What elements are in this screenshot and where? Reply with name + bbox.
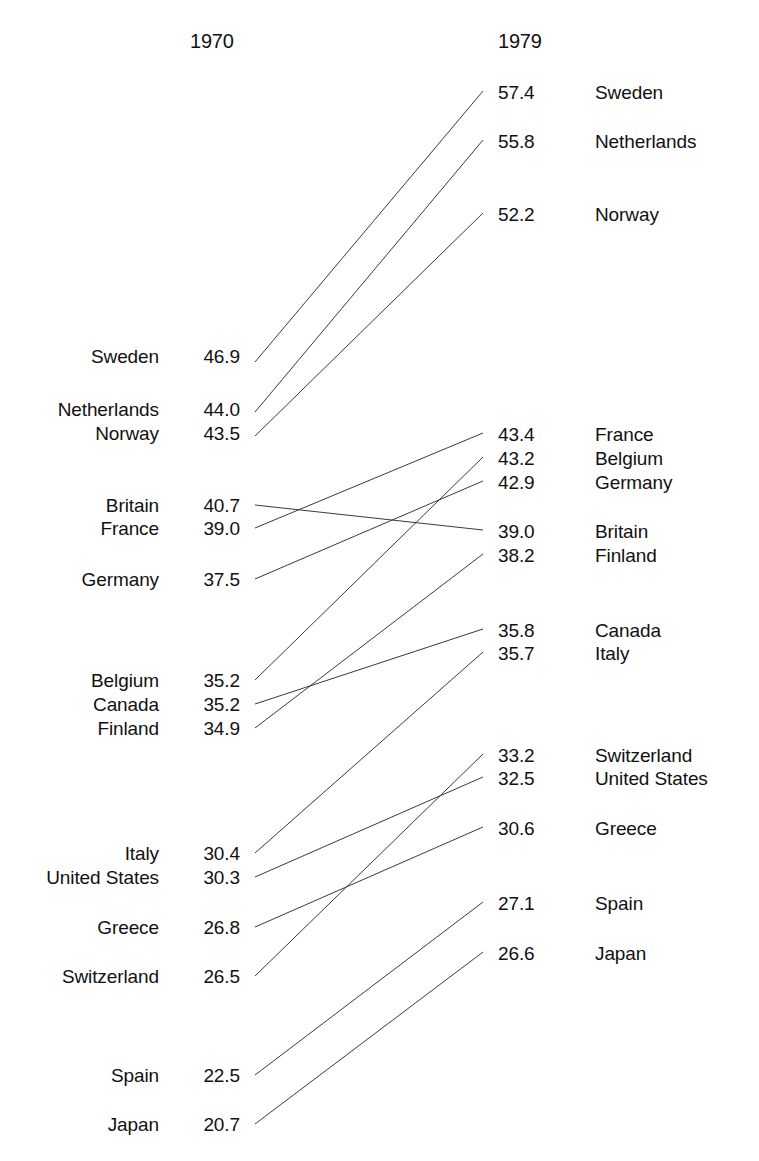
right-row-name: Germany <box>595 473 672 492</box>
left-row-name: Germany <box>82 570 159 589</box>
right-row-name: Netherlands <box>595 132 696 151</box>
left-row-name: Spain <box>111 1066 159 1085</box>
right-row-name: Norway <box>595 205 659 224</box>
left-row-value: 26.8 <box>203 918 240 937</box>
slope-line <box>255 433 483 528</box>
right-row-value: 35.7 <box>498 644 535 663</box>
left-row-name: France <box>100 519 159 538</box>
right-row-name: France <box>595 425 654 444</box>
left-row-name: Sweden <box>91 347 159 366</box>
left-row-value: 46.9 <box>203 347 240 366</box>
right-row-name: Spain <box>595 894 643 913</box>
left-row-value: 30.4 <box>203 844 240 863</box>
column-header-left: 1970 <box>190 31 234 51</box>
right-row-name: Switzerland <box>595 746 692 765</box>
right-row-value: 32.5 <box>498 769 535 788</box>
left-row-name: Norway <box>95 424 159 443</box>
slope-line <box>255 481 483 579</box>
right-row-name: Belgium <box>595 449 663 468</box>
slope-line <box>255 505 483 530</box>
slope-line <box>255 140 483 412</box>
left-row-name: Finland <box>97 719 159 738</box>
right-row-value: 35.8 <box>498 621 535 640</box>
left-row-value: 39.0 <box>203 519 240 538</box>
left-row-name: Netherlands <box>58 400 159 419</box>
left-row-name: Italy <box>125 844 159 863</box>
right-row-value: 30.6 <box>498 819 535 838</box>
right-row-value: 43.2 <box>498 449 535 468</box>
slope-line <box>255 827 483 927</box>
right-row-value: 43.4 <box>498 425 535 444</box>
column-header-right: 1979 <box>498 31 542 51</box>
left-row-value: 44.0 <box>203 400 240 419</box>
slopegraph-figure: 1970 1979 Sweden46.9Netherlands44.0Norwa… <box>0 0 759 1161</box>
left-row-name: Britain <box>106 496 159 515</box>
left-row-name: Japan <box>108 1115 159 1134</box>
left-row-name: Greece <box>97 918 159 937</box>
slope-line <box>255 554 483 728</box>
right-row-name: United States <box>595 769 708 788</box>
right-row-name: Sweden <box>595 83 663 102</box>
right-row-value: 52.2 <box>498 205 535 224</box>
left-row-name: Canada <box>93 695 159 714</box>
right-row-value: 57.4 <box>498 83 535 102</box>
slope-line <box>255 652 483 853</box>
right-row-name: Greece <box>595 819 657 838</box>
left-row-value: 26.5 <box>203 967 240 986</box>
right-row-value: 42.9 <box>498 473 535 492</box>
right-row-value: 26.6 <box>498 944 535 963</box>
left-row-name: Belgium <box>91 671 159 690</box>
left-row-value: 35.2 <box>203 671 240 690</box>
left-row-value: 34.9 <box>203 719 240 738</box>
right-row-value: 27.1 <box>498 894 535 913</box>
slope-line <box>255 902 483 1075</box>
right-row-value: 39.0 <box>498 522 535 541</box>
slope-line <box>255 457 483 680</box>
slope-line <box>255 629 483 704</box>
slope-line <box>255 952 483 1124</box>
left-row-value: 22.5 <box>203 1066 240 1085</box>
left-row-value: 37.5 <box>203 570 240 589</box>
left-row-value: 35.2 <box>203 695 240 714</box>
slope-line <box>255 777 483 877</box>
left-row-value: 43.5 <box>203 424 240 443</box>
slope-line <box>255 754 483 976</box>
right-row-value: 38.2 <box>498 546 535 565</box>
left-row-value: 40.7 <box>203 496 240 515</box>
right-row-name: Finland <box>595 546 657 565</box>
left-row-name: Switzerland <box>62 967 159 986</box>
right-row-value: 33.2 <box>498 746 535 765</box>
left-row-value: 20.7 <box>203 1115 240 1134</box>
right-row-name: Canada <box>595 621 661 640</box>
slope-line <box>255 91 483 362</box>
right-row-name: Japan <box>595 944 646 963</box>
left-row-name: United States <box>46 868 159 887</box>
left-row-value: 30.3 <box>203 868 240 887</box>
right-row-name: Italy <box>595 644 629 663</box>
right-row-name: Britain <box>595 522 648 541</box>
slope-line <box>255 213 483 436</box>
right-row-value: 55.8 <box>498 132 535 151</box>
